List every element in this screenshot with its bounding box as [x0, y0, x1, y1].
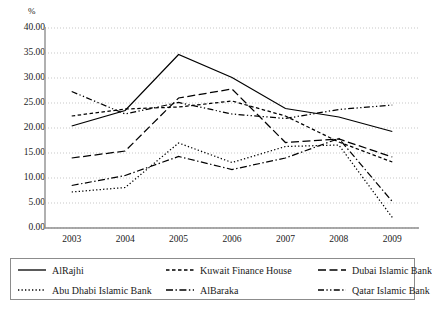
legend-item-dubai-islamic-bank[interactable]: Dubai Islamic Bank: [317, 265, 422, 276]
legend-swatch-icon: [165, 285, 195, 295]
legend-label: Kuwait Finance House: [200, 265, 292, 276]
plot-area: % 0.005.0010.0015.0020.0025.0030.0035.00…: [0, 0, 429, 250]
series-line-dubai-islamic-bank: [72, 89, 393, 158]
legend-swatch-icon: [165, 265, 195, 275]
legend-item-alrajhi[interactable]: AlRajhi: [17, 265, 165, 276]
legend-swatch-icon: [17, 285, 47, 295]
line-chart-svg: [0, 0, 429, 250]
legend-item-qatar-islamic-bank[interactable]: Qatar Islamic Bank: [317, 285, 422, 296]
chart-legend: AlRajhiKuwait Finance HouseDubai Islamic…: [10, 258, 415, 300]
legend-item-kuwait-finance-house[interactable]: Kuwait Finance House: [165, 265, 317, 276]
legend-label: Qatar Islamic Bank: [352, 285, 430, 296]
legend-label: Dubai Islamic Bank: [352, 265, 432, 276]
legend-label: Abu Dhabi Islamic Bank: [52, 285, 152, 296]
legend-label: AlBaraka: [200, 285, 238, 296]
series-line-alrajhi: [72, 55, 393, 132]
series-line-albaraka: [72, 139, 393, 202]
legend-swatch-icon: [317, 265, 347, 275]
legend-item-albaraka[interactable]: AlBaraka: [165, 285, 317, 296]
legend-swatch-icon: [17, 265, 47, 275]
legend-label: AlRajhi: [52, 265, 84, 276]
legend-item-abu-dhabi-islamic-bank[interactable]: Abu Dhabi Islamic Bank: [17, 285, 165, 296]
series-line-qatar-islamic-bank: [72, 92, 393, 119]
axis-spine: [45, 27, 419, 228]
legend-grid: AlRajhiKuwait Finance HouseDubai Islamic…: [11, 259, 414, 299]
series-line-abu-dhabi-islamic-bank: [72, 143, 393, 218]
legend-swatch-icon: [317, 285, 347, 295]
